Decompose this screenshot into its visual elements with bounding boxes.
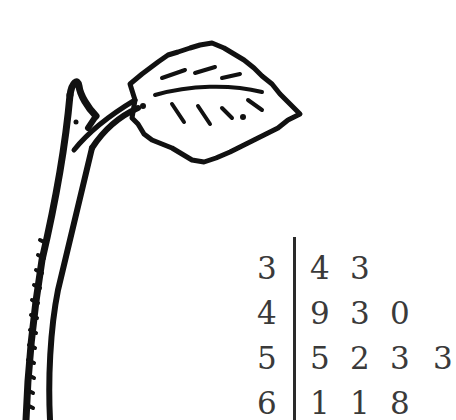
leaf-value: 3 [350,246,370,291]
leaf-value: 8 [390,381,410,420]
stem-value: 4 [257,291,277,336]
plot-row: 5 5 2 3 3 [0,336,456,381]
leaf-value: 5 [310,336,330,381]
leaf-value: 1 [350,381,370,420]
leaf-value: 0 [390,291,410,336]
leaf-value: 3 [390,336,410,381]
leaf-value: 2 [350,336,370,381]
leaf-value: 9 [310,291,330,336]
plot-row: 3 4 3 [0,246,456,291]
stem-and-leaf-figure: 3 4 3 4 9 3 0 5 5 2 3 3 6 1 1 8 [0,0,456,420]
plot-row: 4 9 3 0 [0,291,456,336]
stem-value: 5 [257,336,277,381]
plot-row: 6 1 1 8 [0,381,456,420]
leaf-value: 4 [310,246,330,291]
leaf-value: 3 [350,291,370,336]
stem-value: 6 [257,381,277,420]
leaf-value: 3 [433,336,453,381]
leaf-value: 1 [310,381,330,420]
stem-value: 3 [257,246,277,291]
